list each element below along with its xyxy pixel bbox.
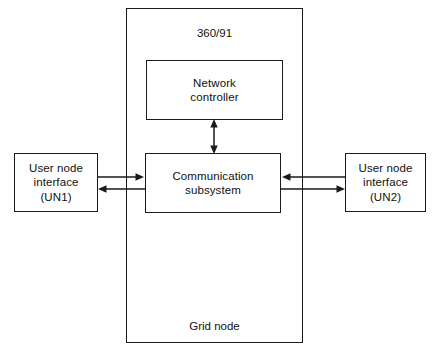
user-node-interface-un1-label: User node interface (UN1) bbox=[29, 161, 83, 205]
network-controller-block: Network controller bbox=[146, 60, 283, 120]
communication-subsystem-label: Communication subsystem bbox=[172, 169, 253, 198]
grid-node-footer-label: Grid node bbox=[126, 319, 303, 333]
user-node-interface-un1-block: User node interface (UN1) bbox=[14, 153, 98, 212]
grid-node-title: 360/91 bbox=[126, 26, 303, 40]
user-node-interface-un2-label: User node interface (UN2) bbox=[359, 161, 413, 205]
network-controller-label: Network controller bbox=[190, 76, 238, 105]
block-diagram-figure: 360/91 Grid node Network controller Comm… bbox=[0, 0, 438, 351]
user-node-interface-un2-block: User node interface (UN2) bbox=[345, 153, 426, 212]
communication-subsystem-block: Communication subsystem bbox=[145, 153, 281, 213]
